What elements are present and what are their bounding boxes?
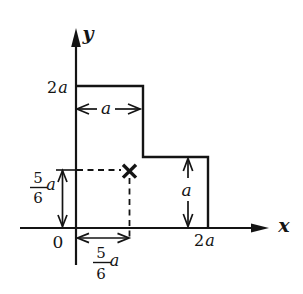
x-tick-coef: 2 — [194, 231, 204, 250]
x-tick-2a: 2 a — [194, 231, 215, 250]
x-tick-var: a — [205, 231, 215, 250]
centroid-figure: y x 0 2 a 2 a a — [0, 0, 303, 294]
x-axis-label: x — [277, 214, 290, 236]
figure-background — [0, 0, 303, 294]
y-tick-2a: 2 a — [47, 78, 68, 97]
centroid-y-frac-numerator: 5 — [33, 169, 43, 187]
centroid-y-frac-denominator: 6 — [33, 189, 43, 207]
y-tick-var: a — [58, 78, 68, 97]
top-width-label: a — [101, 98, 111, 118]
origin-label: 0 — [53, 232, 64, 252]
centroid-y-frac-var: a — [46, 175, 56, 194]
centroid-x-frac-var: a — [110, 251, 120, 270]
centroid-x-frac-denominator: 6 — [96, 265, 106, 283]
y-axis-label: y — [81, 22, 95, 44]
right-height-label: a — [181, 180, 191, 200]
y-tick-coef: 2 — [47, 78, 57, 97]
centroid-diagram-svg: y x 0 2 a 2 a a — [0, 0, 303, 294]
centroid-x-frac-numerator: 5 — [96, 244, 106, 262]
